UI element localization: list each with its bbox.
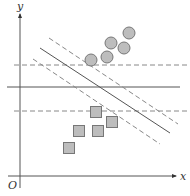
circle-point (85, 54, 97, 66)
squares-layer (64, 107, 118, 154)
circle-point (105, 37, 117, 49)
square-point (74, 126, 85, 137)
y-axis-label: y (16, 0, 24, 13)
square-point (107, 117, 118, 128)
origin-label: O (8, 179, 17, 192)
svm-diagram: y x O (0, 0, 190, 196)
x-axis-label: x (180, 170, 187, 183)
square-point (91, 107, 102, 118)
square-point (93, 126, 104, 137)
circle-point (123, 27, 135, 39)
circle-point (101, 51, 113, 63)
circle-point (118, 42, 130, 54)
square-point (64, 143, 75, 154)
circles-layer (85, 27, 135, 66)
